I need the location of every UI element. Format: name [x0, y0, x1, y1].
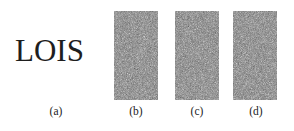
- figure: LOIS (a) (b) (c) (d): [0, 0, 294, 131]
- label-b: (b): [116, 104, 156, 118]
- label-a: (a): [36, 104, 76, 118]
- noise-panel-c: [175, 11, 219, 100]
- label-c: (c): [177, 104, 217, 118]
- noise-panel-d: [233, 11, 277, 100]
- label-d: (d): [236, 104, 276, 118]
- lois-text-image: LOIS: [15, 34, 84, 68]
- noise-panel-b: [114, 11, 158, 100]
